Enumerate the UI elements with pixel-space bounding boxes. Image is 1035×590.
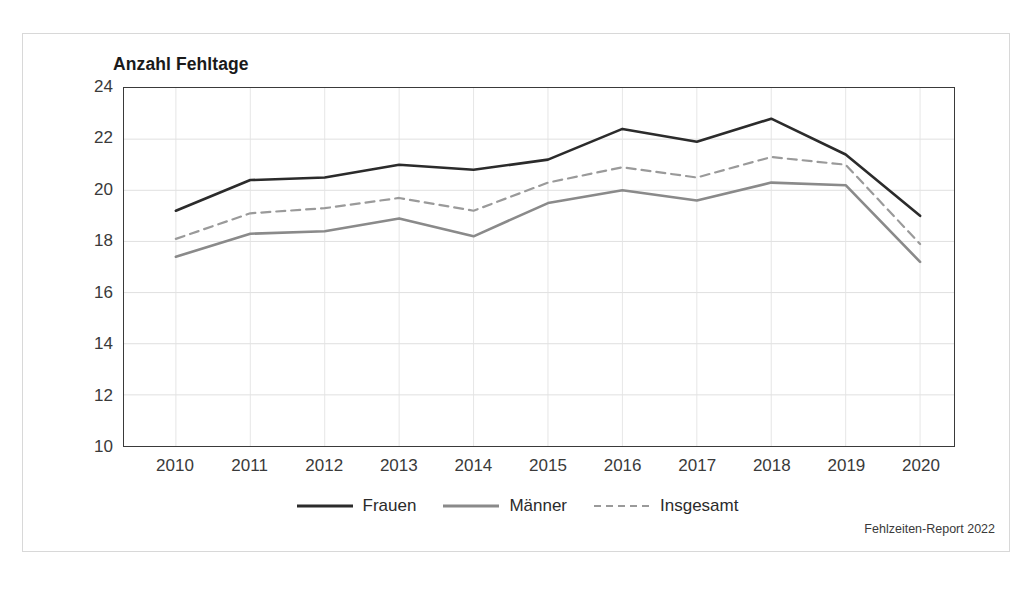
data-series-lines: [124, 88, 954, 446]
y-axis-tick-labels: 1012141618202224: [63, 87, 113, 447]
chart-title: Anzahl Fehltage: [113, 54, 249, 75]
series-line-insgesamt: [176, 157, 920, 244]
y-axis-tick-22: 22: [73, 128, 113, 148]
x-axis-tick-2020: 2020: [886, 456, 956, 476]
y-axis-tick-24: 24: [73, 77, 113, 97]
x-axis-tick-2018: 2018: [737, 456, 807, 476]
chart-legend: FrauenMännerInsgesamt: [23, 496, 1011, 516]
legend-label-frauen: Frauen: [363, 496, 417, 516]
y-axis-tick-20: 20: [73, 180, 113, 200]
legend-item-insgesamt[interactable]: Insgesamt: [593, 496, 738, 516]
y-axis-tick-18: 18: [73, 231, 113, 251]
x-axis-tick-2019: 2019: [811, 456, 881, 476]
x-axis-tick-labels: 2010201120122013201420152016201720182019…: [123, 456, 955, 482]
series-line-frauen: [176, 119, 920, 216]
legend-swatch-insgesamt: [593, 500, 651, 512]
x-axis-tick-2014: 2014: [438, 456, 508, 476]
y-axis-tick-14: 14: [73, 334, 113, 354]
legend-item-männer[interactable]: Männer: [442, 496, 567, 516]
x-axis-tick-2016: 2016: [588, 456, 658, 476]
x-axis-tick-2013: 2013: [364, 456, 434, 476]
x-axis-tick-2015: 2015: [513, 456, 583, 476]
legend-label-männer: Männer: [509, 496, 567, 516]
series-line-männer: [176, 183, 920, 262]
x-axis-tick-2017: 2017: [662, 456, 732, 476]
x-axis-tick-2012: 2012: [289, 456, 359, 476]
y-axis-tick-16: 16: [73, 283, 113, 303]
plot-area: [123, 87, 955, 447]
x-axis-tick-2011: 2011: [215, 456, 285, 476]
source-note: Fehlzeiten-Report 2022: [864, 522, 995, 536]
x-axis-tick-2010: 2010: [140, 456, 210, 476]
y-axis-tick-12: 12: [73, 386, 113, 406]
legend-swatch-männer: [442, 500, 500, 512]
legend-item-frauen[interactable]: Frauen: [296, 496, 417, 516]
y-axis-tick-10: 10: [73, 437, 113, 457]
chart-figure: Anzahl Fehltage 1012141618202224 2010201…: [22, 33, 1010, 552]
legend-swatch-frauen: [296, 500, 354, 512]
legend-label-insgesamt: Insgesamt: [660, 496, 738, 516]
